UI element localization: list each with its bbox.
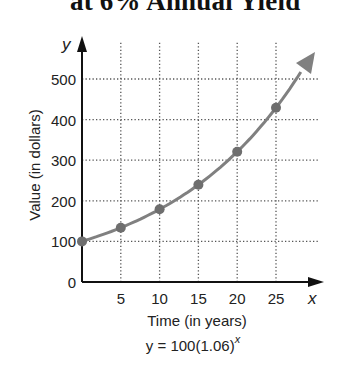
- y-tick-label: 0: [68, 274, 76, 291]
- x-tick-label: 15: [190, 290, 207, 307]
- x-tick-label: 10: [151, 290, 168, 307]
- series-arrow-icon: [296, 52, 315, 74]
- y-tick-label: 300: [51, 152, 76, 169]
- equation-exponent: x: [234, 333, 241, 345]
- x-axis-label: Time (in years): [147, 312, 246, 329]
- x-tick-label: 5: [117, 290, 125, 307]
- data-point: [232, 147, 242, 157]
- y-tick-label: 200: [51, 193, 76, 210]
- series-line: [82, 72, 301, 241]
- data-point: [116, 223, 126, 233]
- data-point: [77, 236, 87, 246]
- x-axis-arrow-icon: [308, 277, 324, 287]
- y-axis-arrow-icon: [77, 36, 87, 52]
- x-tick-label: 25: [268, 290, 285, 307]
- data-point: [271, 103, 281, 113]
- equation-base: y = 100(1.06): [146, 337, 235, 354]
- y-tick-labels: 0100200300400500: [51, 71, 76, 291]
- y-tick-label: 400: [51, 112, 76, 129]
- y-tick-label: 500: [51, 71, 76, 88]
- y-tick-label: 100: [51, 233, 76, 250]
- data-point: [155, 204, 165, 214]
- equation: y = 100(1.06)x: [146, 333, 241, 354]
- x-tick-labels: 510152025: [117, 290, 285, 307]
- axes: [77, 36, 324, 287]
- y-axis-variable: y: [61, 35, 72, 54]
- gridlines: [82, 42, 318, 282]
- x-axis-variable: x: [307, 289, 317, 308]
- chart: y x 0100200300400500 510152025 Value (in…: [0, 0, 341, 391]
- x-tick-label: 20: [229, 290, 246, 307]
- data-series: [77, 52, 315, 246]
- y-axis-label: Value (in dollars): [26, 109, 43, 220]
- data-point: [193, 180, 203, 190]
